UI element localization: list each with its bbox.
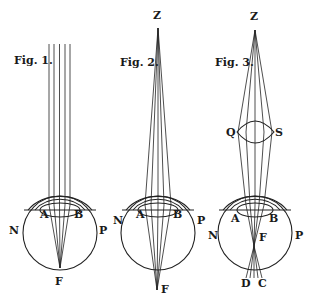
label-N: N — [113, 214, 123, 227]
label-B: B — [74, 208, 83, 221]
label-B: B — [269, 212, 278, 225]
label-C: C — [258, 277, 267, 290]
label-N: N — [9, 224, 19, 237]
label-A: A — [135, 208, 145, 221]
figure-1: Fig. 1. A B N P F — [9, 44, 107, 288]
figure-3-title: Fig. 3. — [215, 56, 254, 69]
label-Z: Z — [250, 10, 258, 23]
label-F: F — [161, 283, 169, 296]
figure-2: Fig. 2. Z A B N P F — [113, 9, 205, 296]
label-A: A — [230, 212, 240, 225]
label-D: D — [241, 277, 251, 290]
label-N: N — [208, 229, 218, 242]
label-P: P — [295, 229, 303, 242]
label-F: F — [259, 231, 267, 244]
label-P: P — [197, 214, 205, 227]
label-Z: Z — [153, 9, 161, 22]
figure-3: Fig. 3. Z Q S A B N P F D C — [208, 10, 303, 290]
figure-3-convex-lens — [237, 121, 274, 143]
label-F: F — [55, 275, 63, 288]
figure-2-title: Fig. 2. — [120, 56, 159, 69]
label-A: A — [39, 208, 49, 221]
eye-optics-diagram: Fig. 1. A B N P F Fig. 2. Z — [0, 0, 310, 301]
figure-1-title: Fig. 1. — [14, 54, 53, 67]
label-P: P — [99, 224, 107, 237]
figure-1-parallel-rays — [49, 44, 70, 268]
label-B: B — [173, 208, 182, 221]
label-Q: Q — [226, 126, 236, 139]
label-S: S — [275, 126, 283, 139]
